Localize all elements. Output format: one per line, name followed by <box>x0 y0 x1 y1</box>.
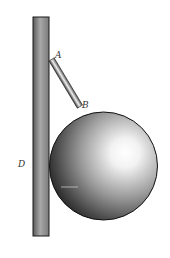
ball <box>50 112 158 220</box>
label-d: D <box>17 159 25 169</box>
label-b: B <box>81 100 89 110</box>
rod <box>49 58 82 108</box>
label-a: A <box>54 50 62 60</box>
diagram-canvas: A B D <box>0 0 170 258</box>
wall <box>33 17 49 236</box>
